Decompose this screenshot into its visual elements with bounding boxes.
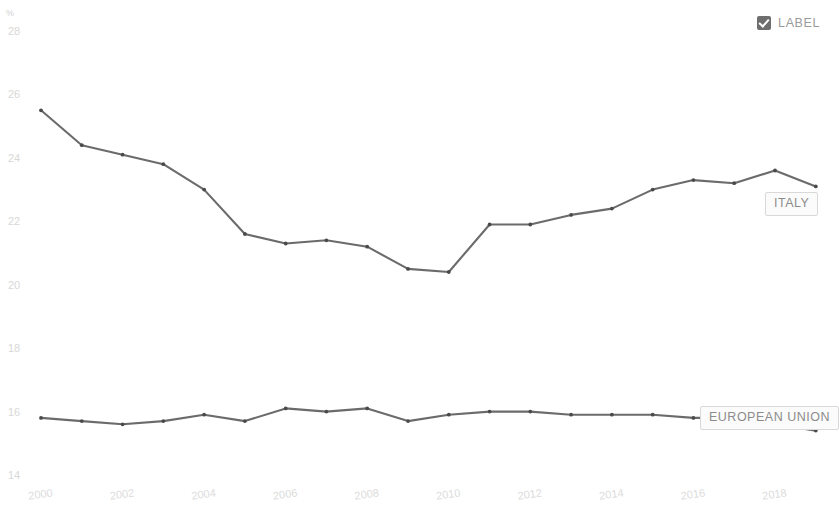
y-tick-24: 24 xyxy=(8,152,20,164)
data-point[interactable] xyxy=(528,223,532,227)
x-tick-2014: 2014 xyxy=(598,486,624,501)
legend-toggle[interactable]: LABEL xyxy=(757,16,820,30)
data-point[interactable] xyxy=(610,413,614,417)
x-tick-2002: 2002 xyxy=(109,486,135,501)
data-series-group xyxy=(39,108,818,432)
y-axis-unit-label: % xyxy=(6,8,14,18)
data-point[interactable] xyxy=(161,162,165,166)
data-point[interactable] xyxy=(610,207,614,211)
y-tick-26: 26 xyxy=(8,88,20,100)
data-point[interactable] xyxy=(325,238,329,242)
data-point[interactable] xyxy=(569,213,573,217)
data-point[interactable] xyxy=(447,413,451,417)
data-point[interactable] xyxy=(80,419,84,423)
data-point[interactable] xyxy=(243,232,247,236)
x-axis-tick-labels: 2000200220042006200820102012201420162018 xyxy=(27,486,787,501)
x-tick-2000: 2000 xyxy=(27,486,53,501)
data-point[interactable] xyxy=(121,153,125,157)
y-tick-20: 20 xyxy=(8,279,20,291)
data-point[interactable] xyxy=(202,188,206,192)
series-label-european-union[interactable]: EUROPEAN UNION xyxy=(700,406,839,430)
data-point[interactable] xyxy=(365,407,369,411)
x-tick-2016: 2016 xyxy=(680,486,706,501)
data-point[interactable] xyxy=(814,185,818,189)
x-tick-2018: 2018 xyxy=(761,486,787,501)
data-point[interactable] xyxy=(488,410,492,414)
data-point[interactable] xyxy=(488,223,492,227)
data-point[interactable] xyxy=(692,416,696,420)
data-point[interactable] xyxy=(569,413,573,417)
checkbox-checked-icon[interactable] xyxy=(757,16,771,30)
x-tick-2008: 2008 xyxy=(354,486,380,501)
data-point[interactable] xyxy=(284,407,288,411)
y-tick-16: 16 xyxy=(8,406,20,418)
y-tick-18: 18 xyxy=(8,342,20,354)
data-point[interactable] xyxy=(39,108,43,112)
data-point[interactable] xyxy=(773,169,777,173)
legend-label: LABEL xyxy=(778,16,820,30)
y-tick-14: 14 xyxy=(8,469,20,481)
x-tick-2012: 2012 xyxy=(517,486,543,501)
data-point[interactable] xyxy=(447,270,451,274)
data-point[interactable] xyxy=(651,188,655,192)
x-tick-2006: 2006 xyxy=(272,486,298,501)
y-tick-22: 22 xyxy=(8,215,20,227)
data-point[interactable] xyxy=(161,419,165,423)
y-axis-tick-labels: 2826242220181614 xyxy=(8,25,20,481)
data-point[interactable] xyxy=(692,178,696,182)
data-point[interactable] xyxy=(80,143,84,147)
data-point[interactable] xyxy=(121,422,125,426)
data-point[interactable] xyxy=(202,413,206,417)
data-point[interactable] xyxy=(243,419,247,423)
data-point[interactable] xyxy=(406,267,410,271)
series-label-italy[interactable]: ITALY xyxy=(765,192,818,216)
y-tick-28: 28 xyxy=(8,25,20,37)
data-point[interactable] xyxy=(284,242,288,246)
data-point[interactable] xyxy=(365,245,369,249)
data-point[interactable] xyxy=(528,410,532,414)
data-point[interactable] xyxy=(732,181,736,185)
data-point[interactable] xyxy=(325,410,329,414)
data-point[interactable] xyxy=(39,416,43,420)
x-tick-2010: 2010 xyxy=(435,486,461,501)
data-point[interactable] xyxy=(651,413,655,417)
data-point[interactable] xyxy=(406,419,410,423)
x-tick-2004: 2004 xyxy=(191,486,217,501)
series-line-italy[interactable] xyxy=(41,110,816,272)
